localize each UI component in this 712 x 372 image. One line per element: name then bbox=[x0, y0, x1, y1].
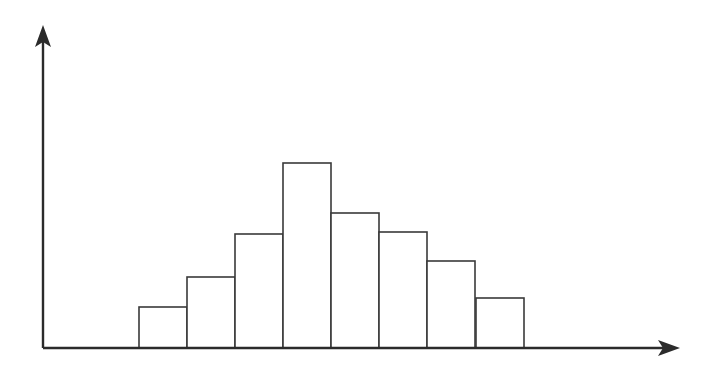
y-axis bbox=[35, 25, 51, 348]
histogram-bar bbox=[139, 307, 187, 348]
histogram-canvas bbox=[0, 0, 712, 372]
histogram-bar bbox=[476, 298, 524, 348]
histogram-bar bbox=[331, 213, 379, 348]
histogram-bar bbox=[283, 163, 331, 348]
bars-group bbox=[139, 163, 524, 348]
histogram-bar bbox=[379, 232, 427, 348]
histogram-figure bbox=[0, 0, 712, 372]
histogram-bar bbox=[235, 234, 283, 348]
histogram-bar bbox=[427, 261, 475, 348]
histogram-bar bbox=[187, 277, 235, 348]
